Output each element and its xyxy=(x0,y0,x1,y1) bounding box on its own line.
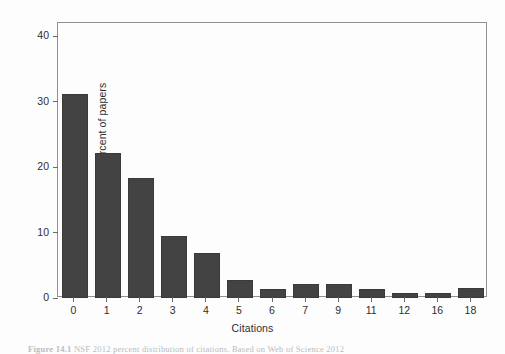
y-tick-label: 0 xyxy=(43,291,49,303)
x-tick-label: 9 xyxy=(324,304,352,316)
plot-area: 010203040 Percent of papers xyxy=(57,22,487,297)
bar xyxy=(359,289,385,298)
x-tick-label: 2 xyxy=(126,304,154,316)
caption-text: NSF 2012 percent distribution of citatio… xyxy=(72,344,345,354)
x-tick-mark xyxy=(305,297,306,302)
x-tick-label: 7 xyxy=(291,304,319,316)
x-tick-label: 12 xyxy=(390,304,418,316)
x-tick-mark xyxy=(272,297,273,302)
x-tick-mark xyxy=(404,297,405,302)
x-tick-label: 18 xyxy=(456,304,484,316)
x-tick-label: 16 xyxy=(423,304,451,316)
bar xyxy=(392,293,418,298)
y-tick-label: 10 xyxy=(37,226,49,238)
y-tick-label: 30 xyxy=(37,95,49,107)
x-tick-mark xyxy=(106,297,107,302)
bar xyxy=(293,284,319,298)
x-tick-mark xyxy=(73,297,74,302)
x-tick-mark xyxy=(437,297,438,302)
x-tick-label: 5 xyxy=(225,304,253,316)
y-tick-mark xyxy=(53,36,58,37)
bar xyxy=(425,293,451,298)
bar xyxy=(161,236,187,298)
y-tick-mark xyxy=(53,101,58,102)
bar xyxy=(128,178,154,298)
figure-caption: Figure 14.1 NSF 2012 percent distributio… xyxy=(28,344,488,354)
x-tick-mark xyxy=(371,297,372,302)
x-tick-label: 1 xyxy=(93,304,121,316)
x-tick-mark xyxy=(172,297,173,302)
y-tick-label: 20 xyxy=(37,160,49,172)
x-tick-label: 11 xyxy=(357,304,385,316)
bar xyxy=(194,253,220,298)
bar xyxy=(260,289,286,298)
x-tick-mark xyxy=(139,297,140,302)
bar xyxy=(326,284,352,298)
y-tick-mark xyxy=(53,167,58,168)
bar xyxy=(95,153,121,298)
x-tick-label: 0 xyxy=(60,304,88,316)
bar xyxy=(62,94,88,298)
y-tick-mark xyxy=(53,232,58,233)
bar xyxy=(227,280,253,298)
bar xyxy=(458,288,484,298)
figure-bar-chart: 010203040 Percent of papers 012345679111… xyxy=(0,0,505,354)
x-tick-mark xyxy=(238,297,239,302)
caption-number: Figure 14.1 xyxy=(28,344,72,354)
x-tick-label: 6 xyxy=(258,304,286,316)
x-tick-label: 3 xyxy=(159,304,187,316)
x-axis-title: Citations xyxy=(0,322,505,334)
x-tick-mark xyxy=(205,297,206,302)
x-tick-mark xyxy=(470,297,471,302)
x-tick-label: 4 xyxy=(192,304,220,316)
y-tick-mark xyxy=(53,298,58,299)
x-tick-mark xyxy=(338,297,339,302)
y-tick-label: 40 xyxy=(37,29,49,41)
